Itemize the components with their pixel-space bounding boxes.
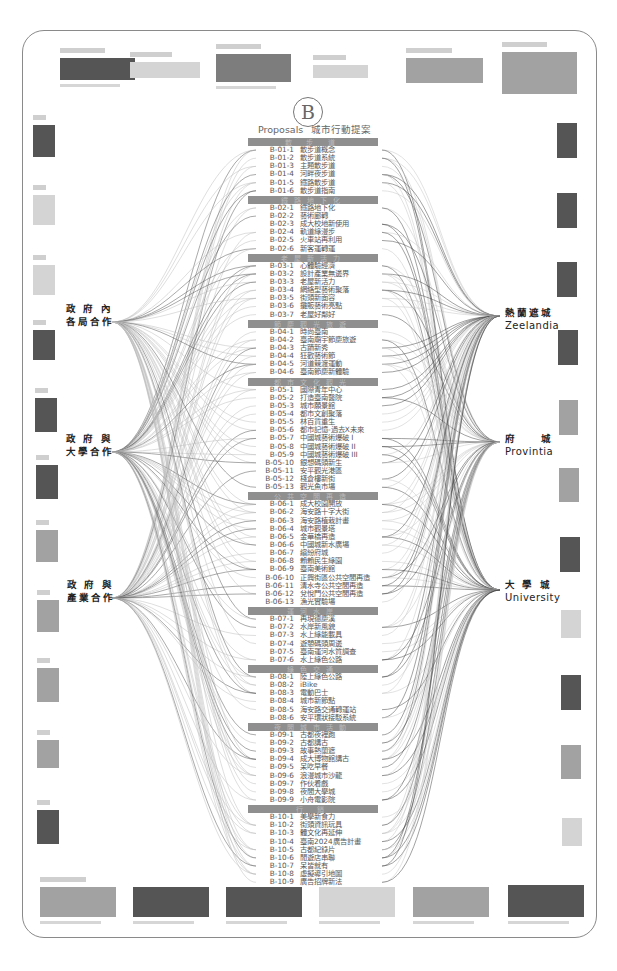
proposal-code: B-10-9 bbox=[248, 878, 294, 886]
section-header-label: 鐵路地下化 bbox=[248, 195, 378, 205]
proposal-name: 臺南節慶新體驗 bbox=[300, 367, 349, 376]
group-label: 產業合作 bbox=[67, 591, 115, 604]
group-label-en: Zeelandia bbox=[505, 319, 559, 332]
proposal-code: B-02-6 bbox=[248, 245, 294, 253]
proposal-code: B-03-7 bbox=[248, 311, 294, 319]
group-label: 政 府 內 bbox=[66, 302, 114, 315]
proposal-name: 觀光魚市場 bbox=[300, 482, 335, 491]
proposal-item: B-02-6新客運轉運 bbox=[248, 245, 378, 253]
group-label-zh: 府 城 bbox=[505, 432, 553, 445]
group-label: 政 府 與 bbox=[66, 432, 114, 445]
section-header-label: 老屋新活力 bbox=[248, 253, 378, 263]
proposal-item: B-09-9小舟電影院 bbox=[248, 796, 378, 804]
section-header-b-10: 行 銷 bbox=[248, 805, 378, 813]
left-group-3: 政 府 與 產業合作 bbox=[67, 578, 115, 604]
left-group-2: 政 府 與 大學合作 bbox=[66, 432, 114, 458]
right-group-zeelandia: 熱蘭遮城 Zeelandia bbox=[505, 306, 559, 332]
proposal-code: B-06-13 bbox=[248, 598, 294, 606]
group-label-en: University bbox=[505, 591, 560, 604]
proposal-name: 漁光實驗場 bbox=[300, 597, 335, 606]
proposal-name: 水上綠色公路 bbox=[300, 655, 342, 664]
group-label-zh: 大 學 城 bbox=[505, 578, 560, 591]
proposal-code: B-01-6 bbox=[248, 187, 294, 195]
title-zh: 城市行動提案 bbox=[311, 124, 371, 135]
proposal-item: B-06-13漁光實驗場 bbox=[248, 598, 378, 606]
proposal-name: 小舟電影院 bbox=[300, 795, 335, 804]
proposal-name: 老屋好鄰好 bbox=[300, 310, 335, 319]
proposal-item: B-03-7老屋好鄰好 bbox=[248, 311, 378, 319]
proposal-item: B-04-6臺南節慶新體驗 bbox=[248, 368, 378, 376]
group-label: 政 府 與 bbox=[67, 578, 115, 591]
proposal-list: 散 步 道B-01-1散步道概念B-01-2散步道系統B-01-3主題散步道B-… bbox=[248, 137, 378, 886]
proposal-name: 安平環狀接駁系統 bbox=[300, 713, 356, 722]
section-header-b-07: 運河水岸 bbox=[248, 607, 378, 615]
section-header-b-04: 節慶觀光旅遊 bbox=[248, 320, 378, 328]
section-header-b-06: 公共空間再造 bbox=[248, 492, 378, 500]
proposal-name: 廣告招牌新法 bbox=[300, 877, 342, 886]
proposal-name: 散步道指南 bbox=[300, 186, 335, 195]
page-title: Proposals城市行動提案 bbox=[258, 122, 371, 136]
section-header-label: 節慶觀光旅遊 bbox=[248, 319, 378, 329]
section-header-b-02: 鐵路地下化 bbox=[248, 196, 378, 204]
section-header-b-09: 夜間城市活動 bbox=[248, 723, 378, 731]
proposal-item: B-05-13觀光魚市場 bbox=[248, 483, 378, 491]
proposal-name: 新客運轉運 bbox=[300, 244, 335, 253]
proposal-code: B-07-6 bbox=[248, 656, 294, 664]
proposal-code: B-08-6 bbox=[248, 714, 294, 722]
group-label: 各局合作 bbox=[66, 315, 114, 328]
right-group-provintia: 府 城 Provintia bbox=[505, 432, 553, 458]
section-header-b-05: 都市文化觀光 bbox=[248, 378, 378, 386]
section-header-label: 行 銷 bbox=[248, 804, 378, 814]
section-header-label: 運河水岸 bbox=[248, 606, 378, 616]
proposal-item: B-08-6安平環狀接駁系統 bbox=[248, 714, 378, 722]
section-header-label: 公共空間再造 bbox=[248, 491, 378, 501]
proposal-item: B-01-6散步道指南 bbox=[248, 187, 378, 195]
section-header-label: 都市文化觀光 bbox=[248, 377, 378, 387]
section-header-b-08: 綠色交通 bbox=[248, 665, 378, 673]
section-header-b-01: 散 步 道 bbox=[248, 138, 378, 146]
right-group-university: 大 學 城 University bbox=[505, 578, 560, 604]
section-header-label: 散 步 道 bbox=[248, 137, 378, 147]
proposal-item: B-07-6水上綠色公路 bbox=[248, 656, 378, 664]
title-en: Proposals bbox=[258, 124, 303, 135]
left-group-1: 政 府 內 各局合作 bbox=[66, 302, 114, 328]
proposal-code: B-04-6 bbox=[248, 368, 294, 376]
group-label: 大學合作 bbox=[66, 445, 114, 458]
proposal-item: B-10-9廣告招牌新法 bbox=[248, 878, 378, 886]
group-label-en: Provintia bbox=[505, 445, 553, 458]
proposal-code: B-09-9 bbox=[248, 796, 294, 804]
section-header-label: 夜間城市活動 bbox=[248, 722, 378, 732]
proposal-code: B-05-13 bbox=[248, 483, 294, 491]
section-header-b-03: 老屋新活力 bbox=[248, 254, 378, 262]
section-header-label: 綠色交通 bbox=[248, 664, 378, 674]
group-label-zh: 熱蘭遮城 bbox=[505, 306, 559, 319]
